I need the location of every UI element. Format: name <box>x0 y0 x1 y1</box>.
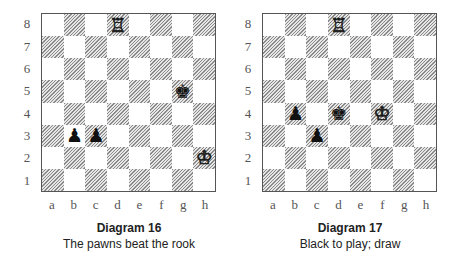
square-f2 <box>150 147 172 169</box>
rank-label: 1 <box>20 170 34 192</box>
square-d5 <box>107 80 129 102</box>
square-c8 <box>306 14 328 36</box>
square-d2 <box>328 147 350 169</box>
square-b8 <box>285 14 307 36</box>
square-h1 <box>193 169 215 191</box>
square-a5 <box>42 80 64 102</box>
square-h6 <box>414 58 436 80</box>
square-e8 <box>350 14 372 36</box>
black-pawn-icon: ♟ <box>287 104 304 123</box>
square-c7 <box>306 36 328 58</box>
square-d1 <box>328 169 350 191</box>
square-b6 <box>64 58 86 80</box>
square-b8 <box>64 14 86 36</box>
square-d1 <box>107 169 129 191</box>
square-h8 <box>414 14 436 36</box>
square-a3 <box>42 125 64 147</box>
rank-label: 1 <box>241 170 255 192</box>
square-a6 <box>42 58 64 80</box>
file-label: f <box>150 197 172 213</box>
square-b6 <box>285 58 307 80</box>
rank-label: 2 <box>241 147 255 169</box>
square-b7 <box>64 36 86 58</box>
square-h3 <box>193 125 215 147</box>
square-g8 <box>393 14 415 36</box>
square-a7 <box>263 36 285 58</box>
rank-label: 6 <box>241 58 255 80</box>
file-labels: abcdefgh <box>262 197 437 213</box>
square-g4 <box>393 103 415 125</box>
square-c6 <box>306 58 328 80</box>
file-label: g <box>172 197 194 213</box>
square-f1 <box>371 169 393 191</box>
square-d2 <box>107 147 129 169</box>
square-h2: ♔ <box>193 147 215 169</box>
file-label: h <box>415 197 437 213</box>
diagram-caption: The pawns beat the rook <box>29 237 229 251</box>
square-g8 <box>172 14 194 36</box>
square-h8 <box>193 14 215 36</box>
square-d5 <box>328 80 350 102</box>
rank-label: 2 <box>20 147 34 169</box>
rank-label: 5 <box>241 80 255 102</box>
file-label: c <box>306 197 328 213</box>
square-c4 <box>85 103 107 125</box>
chessboard: ♖♟♚♔♟ <box>262 13 437 192</box>
square-d3 <box>328 125 350 147</box>
file-label: d <box>328 197 350 213</box>
rank-label: 8 <box>241 13 255 35</box>
square-g2 <box>393 147 415 169</box>
square-e6 <box>129 58 151 80</box>
square-g3 <box>393 125 415 147</box>
file-label: b <box>63 197 85 213</box>
square-b5 <box>285 80 307 102</box>
file-label: g <box>393 197 415 213</box>
square-f8 <box>371 14 393 36</box>
square-h3 <box>414 125 436 147</box>
square-c4 <box>306 103 328 125</box>
square-g7 <box>393 36 415 58</box>
black-king-icon: ♚ <box>174 82 191 101</box>
square-b3 <box>285 125 307 147</box>
square-e4 <box>350 103 372 125</box>
square-e3 <box>350 125 372 147</box>
rank-labels: 87654321 <box>20 13 34 192</box>
diagram-title: Diagram 17 <box>250 221 450 235</box>
square-d4 <box>107 103 129 125</box>
square-a2 <box>263 147 285 169</box>
white-king-icon: ♔ <box>373 104 390 123</box>
chessboard: ♖♚♟♟♔ <box>41 13 216 192</box>
file-label: a <box>41 197 63 213</box>
square-c1 <box>85 169 107 191</box>
square-b5 <box>64 80 86 102</box>
file-label: a <box>262 197 284 213</box>
square-d3 <box>107 125 129 147</box>
black-pawn-icon: ♟ <box>66 126 83 145</box>
square-a4 <box>42 103 64 125</box>
square-c3: ♟ <box>85 125 107 147</box>
square-g4 <box>172 103 194 125</box>
black-pawn-icon: ♟ <box>309 126 326 145</box>
square-e4 <box>129 103 151 125</box>
square-h4 <box>414 103 436 125</box>
square-c6 <box>85 58 107 80</box>
square-c1 <box>306 169 328 191</box>
square-c2 <box>306 147 328 169</box>
rank-labels: 87654321 <box>241 13 255 192</box>
square-c7 <box>85 36 107 58</box>
square-a1 <box>42 169 64 191</box>
square-g6 <box>393 58 415 80</box>
square-b3: ♟ <box>64 125 86 147</box>
square-f7 <box>371 36 393 58</box>
square-a7 <box>42 36 64 58</box>
square-c2 <box>85 147 107 169</box>
square-g7 <box>172 36 194 58</box>
square-h4 <box>193 103 215 125</box>
file-label: e <box>129 197 151 213</box>
file-label: b <box>284 197 306 213</box>
square-g5 <box>393 80 415 102</box>
square-c3: ♟ <box>306 125 328 147</box>
square-h5 <box>414 80 436 102</box>
square-e6 <box>350 58 372 80</box>
square-a5 <box>263 80 285 102</box>
